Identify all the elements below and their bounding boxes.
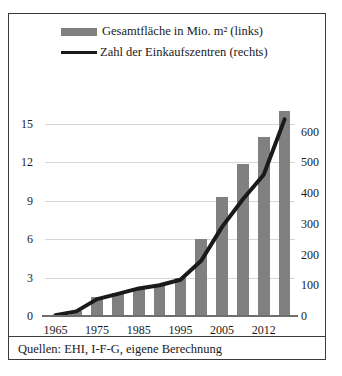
right-axis-tick-label: 200 [301, 249, 331, 261]
chart-legend: Gesamtfläche in Mio. m² (links) Zahl der… [9, 21, 325, 63]
right-axis-tick-label: 100 [301, 279, 331, 291]
right-axis-tick-label: 300 [301, 218, 331, 230]
chart-figure: Gesamtfläche in Mio. m² (links) Zahl der… [8, 13, 326, 360]
x-axis-tick-label: 1995 [158, 324, 202, 336]
x-axis-tick-label: 1975 [75, 324, 119, 336]
legend-item-gesamtflaeche: Gesamtfläche in Mio. m² (links) [9, 21, 325, 42]
plot-area [45, 101, 295, 316]
legend-item-label: Zahl der Einkaufszentren (rechts) [100, 46, 268, 59]
left-axis-tick-label: 0 [7, 310, 33, 322]
right-axis-tick-label: 0 [301, 310, 331, 322]
source-divider [9, 336, 325, 337]
legend-item-einkaufszentren: Zahl der Einkaufszentren (rechts) [9, 42, 325, 63]
right-axis-tick-label: 500 [301, 156, 331, 168]
right-axis-tick-label: 600 [301, 126, 331, 138]
line-series-einkaufszentren [45, 101, 295, 316]
x-axis-tick-label: 2005 [200, 324, 244, 336]
right-axis-tick-label: 400 [301, 187, 331, 199]
left-axis-tick-label: 15 [7, 118, 33, 130]
x-axis-baseline [42, 315, 298, 317]
source-note: Quellen: EHI, I-F-G, eigene Berechnung [18, 343, 222, 356]
left-axis-tick-label: 3 [7, 272, 33, 284]
x-axis-tick-label: 1985 [117, 324, 161, 336]
x-axis-tick-label: 1965 [33, 324, 77, 336]
x-axis-tick-label: 2012 [242, 324, 286, 336]
legend-bar-swatch-icon [61, 28, 97, 36]
left-axis-tick-label: 12 [7, 156, 33, 168]
left-axis-tick-label: 6 [7, 233, 33, 245]
line-path [55, 119, 284, 315]
left-axis-tick-label: 9 [7, 195, 33, 207]
legend-line-swatch-icon [61, 51, 97, 54]
legend-item-label: Gesamtfläche in Mio. m² (links) [102, 25, 263, 38]
